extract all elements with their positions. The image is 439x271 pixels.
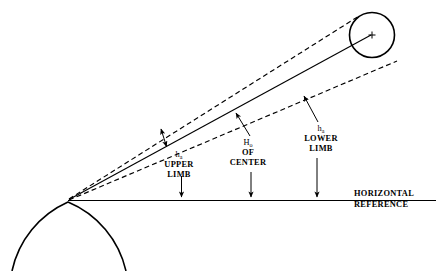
- diagram-canvas: ha UPPER LIMB Ho OF CENTER ha LOWER LIMB…: [0, 0, 439, 271]
- upper-limb-symbol: ha: [150, 150, 208, 160]
- upper-limb-label-line2: LIMB: [150, 170, 208, 180]
- horizontal-reference-line1: HORIZONTAL: [354, 188, 436, 199]
- upper-limb-label-line1: UPPER: [150, 160, 208, 170]
- horizontal-reference-label: HORIZONTAL REFERENCE: [354, 188, 436, 210]
- lower-limb-label: ha LOWER LIMB: [285, 124, 357, 155]
- center-altitude-line2: CENTER: [212, 158, 284, 168]
- lower-limb-line1: LOWER: [285, 134, 357, 144]
- lower-limb-line2: LIMB: [285, 144, 357, 154]
- upper-limb-label: ha UPPER LIMB: [150, 150, 208, 181]
- center-leader-arrow: [236, 113, 250, 136]
- lower-limb-leader-arrow: [304, 96, 318, 122]
- horizontal-reference-line2: REFERENCE: [354, 199, 436, 210]
- upper-limb-gap-double-arrow: [161, 129, 167, 147]
- center-altitude-label: Ho OF CENTER: [212, 138, 284, 169]
- lower-limb-symbol: ha: [285, 124, 357, 134]
- center-altitude-symbol: Ho: [212, 138, 284, 148]
- center-ray: [69, 35, 371, 200]
- center-altitude-line1: OF: [212, 148, 284, 158]
- upper-limb-ray: [69, 16, 359, 199]
- earth-arc: [12, 202, 126, 271]
- diagram-svg: [0, 0, 439, 271]
